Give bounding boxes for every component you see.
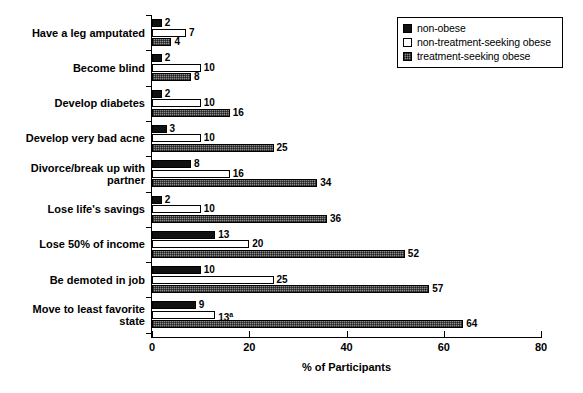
bar-value-label: 9 [199,300,205,310]
bar-value-label: 8 [194,159,200,169]
y-axis-tick [146,297,152,298]
bar-value-label: 25 [277,143,288,153]
bar-non-treatment-seeking-obese [152,170,230,178]
category-label: Be demoted in job [0,274,145,286]
legend-label-non-treatment-seeking-obese: non-treatment-seeking obese [417,37,551,48]
x-axis-tick [444,331,445,338]
bar-value-label: 64 [466,319,477,329]
bar-value-label: 2 [165,195,171,205]
category-label: Lose 50% of income [0,238,145,250]
bar-treatment-seeking-obese [152,144,274,152]
legend-item-non-obese: non-obese [403,22,557,35]
bar-value-label: 52 [408,249,419,259]
bar-treatment-seeking-obese [152,109,230,117]
bar-value-label: 10 [204,98,215,108]
bar-value-label: 2 [165,89,171,99]
bar-non-treatment-seeking-obese [152,29,186,37]
legend-swatch-open-white-icon [403,38,412,47]
bar-value-label: 10 [204,133,215,143]
bar-value-label: 10 [204,63,215,73]
bar-non-treatment-seeking-obese [152,311,215,319]
x-axis-title: % of Participants [151,361,542,373]
x-axis-tick-label: 0 [149,341,155,353]
y-axis-tick [146,333,152,334]
bar-non-treatment-seeking-obese [152,134,201,142]
bar-chart: non-obese non-treatment-seeking obese tr… [0,0,583,393]
y-axis-tick [146,86,152,87]
x-axis-tick-label: 80 [535,341,547,353]
x-axis-tick-label: 40 [340,341,352,353]
legend-label-non-obese: non-obese [417,23,466,34]
category-label: Develop diabetes [0,97,145,109]
bar-treatment-seeking-obese [152,285,429,293]
bar-value-label: 25 [277,275,288,285]
bar-value-label: 16 [233,169,244,179]
bar-value-label: 34 [320,178,331,188]
y-axis-tick [146,15,152,16]
bar-non-treatment-seeking-obese [152,276,274,284]
bar-non-obese [152,54,162,62]
legend-item-treatment-seeking-obese: treatment-seeking obese [403,50,557,63]
legend-item-non-treatment-seeking-obese: non-treatment-seeking obese [403,36,557,49]
category-label: Become blind [0,62,145,74]
bar-value-label: 7 [189,28,195,38]
bar-value-label: 16 [233,108,244,118]
category-label: Have a leg amputated [0,27,145,39]
bar-treatment-seeking-obese [152,179,317,187]
bar-treatment-seeking-obese [152,73,191,81]
y-axis-tick [146,121,152,122]
y-axis-tick [146,262,152,263]
x-axis-tick-label: 20 [243,341,255,353]
category-label: Move to least favorite state [0,303,145,327]
y-axis-tick [146,192,152,193]
bar-value-label: 3 [170,124,176,134]
x-axis-tick [541,331,542,338]
chart-legend: non-obese non-treatment-seeking obese tr… [397,17,563,68]
bar-value-label: 57 [432,284,443,294]
bar-non-obese [152,196,162,204]
bar-value-label: 10 [204,204,215,214]
x-axis-tick [249,331,250,338]
bar-non-obese [152,160,191,168]
bar-value-label: 2 [165,53,171,63]
bar-non-obese [152,125,167,133]
y-axis-tick [146,227,152,228]
bar-value-label: 10 [204,265,215,275]
category-label: Divorce/break up with partner [0,162,145,186]
bar-non-obese [152,90,162,98]
bar-value-label: 4 [174,37,180,47]
legend-swatch-cross-hatch-gray-icon [403,52,412,61]
bar-value-label: 8 [194,72,200,82]
legend-swatch-solid-black-icon [403,24,412,33]
bar-treatment-seeking-obese [152,38,171,46]
legend-label-treatment-seeking-obese: treatment-seeking obese [417,51,530,62]
y-axis-tick [146,50,152,51]
bar-non-obese [152,301,196,309]
bar-value-label: 2 [165,18,171,28]
bar-treatment-seeking-obese [152,250,405,258]
category-label: Lose life's savings [0,203,145,215]
bar-value-label: 13 [218,230,229,240]
bar-non-treatment-seeking-obese [152,240,249,248]
x-axis-tick [152,331,153,338]
x-axis-tick [347,331,348,338]
bar-non-obese [152,231,215,239]
bar-treatment-seeking-obese [152,320,463,328]
x-axis-tick-label: 60 [438,341,450,353]
bar-treatment-seeking-obese [152,215,327,223]
bar-non-treatment-seeking-obese [152,99,201,107]
bar-non-treatment-seeking-obese [152,205,201,213]
bar-value-label: 36 [330,214,341,224]
bar-value-label: 20 [252,239,263,249]
y-axis-tick [146,156,152,157]
bar-non-obese [152,266,201,274]
bar-non-obese [152,19,162,27]
category-label: Develop very bad acne [0,132,145,144]
